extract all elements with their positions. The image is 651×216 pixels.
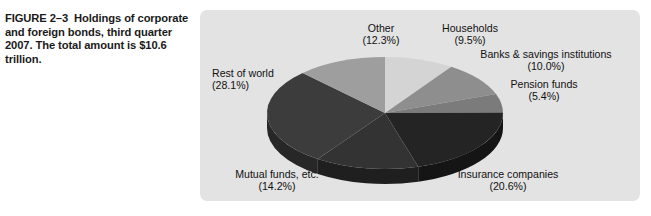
pie-label-pension-funds-pct: (5.4%)	[483, 90, 605, 102]
chart-panel: Other (12.3%) Households (9.5%) Banks & …	[200, 10, 640, 201]
pie-label-banks: Banks & savings institutions (10.0%)	[462, 48, 630, 73]
figure-number: FIGURE 2–3	[5, 12, 68, 24]
pie-label-mutual-funds-name: Mutual funds, etc.	[235, 168, 319, 180]
pie-label-insurance-companies: Insurance companies (20.6%)	[438, 168, 578, 193]
pie-label-households: Households (9.5%)	[432, 22, 508, 47]
pie-label-other-pct: (12.3%)	[346, 34, 416, 46]
pie-label-banks-name: Banks & savings institutions	[480, 48, 611, 60]
figure-caption: FIGURE 2–3 Holdings of corporate and for…	[5, 12, 195, 66]
pie-label-pension-funds-name: Pension funds	[510, 78, 577, 90]
pie-label-insurance-companies-pct: (20.6%)	[438, 180, 578, 192]
pie-label-insurance-companies-name: Insurance companies	[458, 168, 559, 180]
pie-label-rest-of-world: Rest of world (28.1%)	[212, 67, 308, 92]
pie-label-pension-funds: Pension funds (5.4%)	[483, 78, 605, 103]
pie-label-mutual-funds-pct: (14.2%)	[218, 180, 336, 192]
pie-label-other: Other (12.3%)	[346, 22, 416, 47]
pie-label-households-pct: (9.5%)	[432, 34, 508, 46]
pie-label-mutual-funds: Mutual funds, etc. (14.2%)	[218, 168, 336, 193]
pie-label-rest-of-world-name: Rest of world	[212, 67, 274, 79]
pie-label-other-name: Other	[368, 22, 395, 34]
pie-label-households-name: Households	[442, 22, 498, 34]
pie-label-banks-pct: (10.0%)	[462, 60, 630, 72]
pie-label-rest-of-world-pct: (28.1%)	[212, 79, 308, 91]
